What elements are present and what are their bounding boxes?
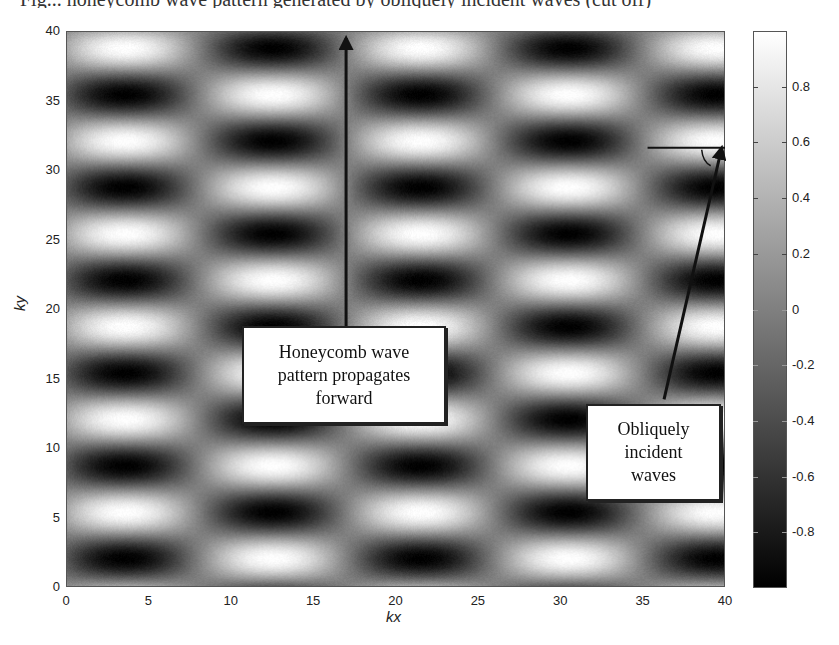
- x-tick-label: 35: [628, 593, 658, 608]
- colorbar-tick-mark: [753, 532, 758, 533]
- colorbar-tick-label: 0.2: [792, 246, 810, 261]
- colorbar-tick-mark: [753, 365, 758, 366]
- annotation-line: Honeycomb wave: [278, 341, 410, 364]
- y-tick-label: 40: [30, 23, 60, 38]
- colorbar-tick-label: 0.6: [792, 134, 810, 149]
- annotation-line: forward: [278, 387, 410, 410]
- honeycomb-annotation-box: Honeycomb wave pattern propagates forwar…: [242, 326, 446, 424]
- colorbar-tick-mark: [782, 365, 787, 366]
- colorbar-tick-label: 0: [792, 302, 799, 317]
- y-tick-label: 5: [30, 510, 60, 525]
- colorbar-tick-mark: [782, 254, 787, 255]
- annotation-line: incident: [618, 441, 690, 464]
- x-axis-label: kx: [386, 608, 401, 625]
- x-tick-label: 20: [381, 593, 411, 608]
- colorbar-tick-label: -0.4: [792, 413, 814, 428]
- colorbar-tick-label: 0.4: [792, 190, 810, 205]
- colorbar-tick-mark: [782, 142, 787, 143]
- colorbar-tick-label: 0.8: [792, 79, 810, 94]
- colorbar-tick-label: -0.6: [792, 469, 814, 484]
- oblique-annotation-box: Obliquely incident waves: [586, 404, 721, 501]
- y-tick-label: 35: [30, 93, 60, 108]
- colorbar-tick-label: -0.8: [792, 524, 814, 539]
- x-tick-label: 0: [51, 593, 81, 608]
- colorbar-tick-label: -0.2: [792, 357, 814, 372]
- colorbar-tick-mark: [753, 87, 758, 88]
- colorbar-tick-mark: [753, 421, 758, 422]
- y-tick-label: 25: [30, 232, 60, 247]
- colorbar-tick-mark: [782, 310, 787, 311]
- x-tick-label: 40: [710, 593, 740, 608]
- x-tick-label: 15: [298, 593, 328, 608]
- x-tick-label: 10: [216, 593, 246, 608]
- y-axis-label: ky: [11, 296, 28, 311]
- y-tick-label: 15: [30, 371, 60, 386]
- colorbar-tick-mark: [782, 198, 787, 199]
- x-tick-label: 5: [133, 593, 163, 608]
- colorbar-tick-mark: [753, 310, 758, 311]
- colorbar-tick-mark: [753, 477, 758, 478]
- annotation-line: pattern propagates: [278, 364, 410, 387]
- x-tick-label: 25: [463, 593, 493, 608]
- colorbar-tick-mark: [753, 142, 758, 143]
- colorbar-tick-mark: [782, 421, 787, 422]
- y-tick-label: 0: [30, 579, 60, 594]
- y-tick-label: 20: [30, 301, 60, 316]
- colorbar-tick-mark: [753, 198, 758, 199]
- colorbar-tick-mark: [753, 254, 758, 255]
- heatmap-canvas: [67, 32, 724, 586]
- annotation-line: waves: [618, 464, 690, 487]
- annotation-line: Obliquely: [618, 418, 690, 441]
- heatmap-plot-area: [66, 31, 725, 587]
- y-tick-label: 10: [30, 440, 60, 455]
- x-tick-label: 30: [545, 593, 575, 608]
- colorbar-tick-mark: [782, 477, 787, 478]
- y-tick-label: 30: [30, 162, 60, 177]
- colorbar-tick-mark: [782, 87, 787, 88]
- figure-caption-cut: Fig... honeycomb wave pattern generated …: [0, 0, 839, 8]
- colorbar-tick-mark: [782, 532, 787, 533]
